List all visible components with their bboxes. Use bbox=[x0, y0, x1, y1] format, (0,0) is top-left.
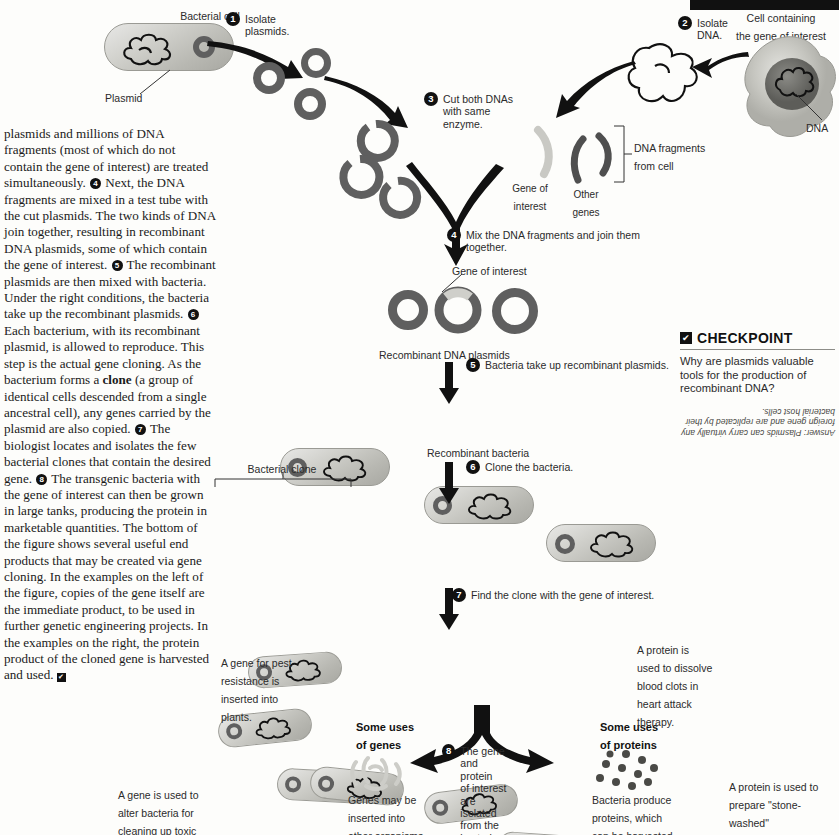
arrow-step-6 bbox=[438, 462, 460, 506]
step-5-badge: 5 bbox=[466, 358, 480, 372]
label-some-uses-of-genes: Some uses of genes bbox=[356, 717, 414, 753]
caption-toxic-waste: A gene is used to alter bacteria for cle… bbox=[118, 785, 223, 835]
chromosome-icon bbox=[117, 29, 179, 67]
step-8-text: The gene and protein of interest are iso… bbox=[460, 744, 512, 835]
arrow-step-2 bbox=[690, 48, 752, 82]
arrow-merge-y bbox=[400, 162, 520, 272]
chromosome-icon bbox=[461, 490, 519, 520]
step-6-badge: 6 bbox=[466, 460, 480, 474]
step-7-text: Find the clone with the gene of interest… bbox=[471, 588, 654, 601]
caption-stone-washed: A protein is used to prepare "stone-wash… bbox=[729, 777, 839, 835]
inline-step-8-badge: 8 bbox=[36, 474, 47, 485]
caption-other-organisms: Genes may be inserted into other organis… bbox=[348, 790, 448, 835]
recombinant-plasmid-1 bbox=[388, 290, 428, 330]
checkpoint-answer: Answer: Plasmids can carry virtually any… bbox=[680, 406, 835, 438]
isolated-plasmid-2 bbox=[253, 62, 285, 94]
arrow-dna-to-fragments bbox=[540, 62, 640, 132]
checkpoint-divider bbox=[680, 349, 835, 350]
step-3-text: Cut both DNAs with same enzyme. bbox=[443, 92, 513, 130]
prose-p3b: The transgenic bacteria with the gene of… bbox=[4, 471, 209, 683]
step-5-text: Bacteria take up recombinant plasmids. bbox=[485, 358, 669, 371]
step-1-text: Isolate plasmids. bbox=[245, 12, 289, 38]
checkpoint-question: Why are plasmids valuable tools for the … bbox=[680, 355, 835, 396]
checkpoint-box: ✔ CHECKPOINT Why are plasmids valuable t… bbox=[680, 330, 835, 438]
chromosome-icon bbox=[583, 528, 641, 558]
step-7: 7 Find the clone with the gene of intere… bbox=[452, 588, 732, 602]
label-dna: DNA bbox=[806, 118, 828, 136]
label-plasmid: Plasmid bbox=[105, 88, 142, 106]
protein-dots-cluster-icon bbox=[592, 748, 662, 796]
arrow-step-5 bbox=[438, 362, 460, 406]
gene-fragments-cluster-icon bbox=[348, 752, 404, 794]
step-8-badge: 8 bbox=[442, 744, 455, 758]
recombinant-plasmid-3 bbox=[492, 288, 538, 334]
step-6-text: Clone the bacteria. bbox=[485, 460, 573, 473]
step-4-text: Mix the DNA fragments and join them toge… bbox=[466, 228, 640, 254]
body-text: plasmids and millions of DNA fragments (… bbox=[4, 126, 216, 684]
step-2-badge: 2 bbox=[678, 16, 692, 30]
step-6: 6 Clone the bacteria. bbox=[466, 460, 666, 474]
recombinant-bacterium-3 bbox=[546, 524, 656, 562]
checkpoint-title: CHECKPOINT bbox=[697, 330, 793, 346]
caption-pest-resistance: A gene for pest resistance is inserted i… bbox=[221, 653, 331, 725]
inline-step-4-badge: 4 bbox=[90, 178, 101, 189]
label-dna-fragments-from-cell: DNA fragments from cell bbox=[634, 138, 705, 174]
checkpoint-header: ✔ CHECKPOINT bbox=[680, 330, 835, 346]
caption-bacteria-proteins: Bacteria produce proteins, which can be … bbox=[592, 790, 702, 835]
inline-step-5-badge: 5 bbox=[112, 260, 123, 271]
step-3: 3 Cut both DNAs with same enzyme. bbox=[424, 92, 544, 130]
step-5: 5 Bacteria take up recombinant plasmids. bbox=[466, 358, 706, 372]
checkmark-icon: ✔ bbox=[680, 332, 692, 344]
step-8: 8 The gene and protein of interest are i… bbox=[442, 744, 512, 835]
step-1: 1 Isolate plasmids. bbox=[226, 12, 326, 38]
cut-plasmid-2 bbox=[338, 155, 382, 199]
prose-term-clone: clone bbox=[103, 372, 132, 387]
isolated-plasmid-1 bbox=[301, 48, 331, 78]
recombinant-plasmid-2 bbox=[434, 286, 482, 334]
gene-of-interest-fragment bbox=[530, 126, 560, 178]
step-7-badge: 7 bbox=[452, 588, 466, 602]
step-3-badge: 3 bbox=[424, 92, 438, 106]
end-of-section-mark: ✔ bbox=[57, 673, 66, 682]
label-recombinant-bacteria: Recombinant bacteria bbox=[427, 443, 529, 461]
plasmid-ring-icon bbox=[555, 534, 575, 554]
bacterial-clone-bracket bbox=[213, 473, 353, 489]
step-4: 4 Mix the DNA fragments and join them to… bbox=[447, 228, 697, 254]
label-other-genes: Other genes bbox=[561, 184, 611, 220]
caption-blood-clots: A protein is used to dissolve blood clot… bbox=[637, 640, 723, 730]
dna-fragments-bracket bbox=[612, 124, 632, 186]
other-gene-fragment-1 bbox=[567, 136, 591, 184]
step-1-badge: 1 bbox=[226, 12, 240, 26]
inline-step-7-badge: 7 bbox=[135, 424, 146, 435]
step-4-badge: 4 bbox=[447, 228, 461, 242]
inline-step-6-badge: 6 bbox=[188, 309, 199, 320]
